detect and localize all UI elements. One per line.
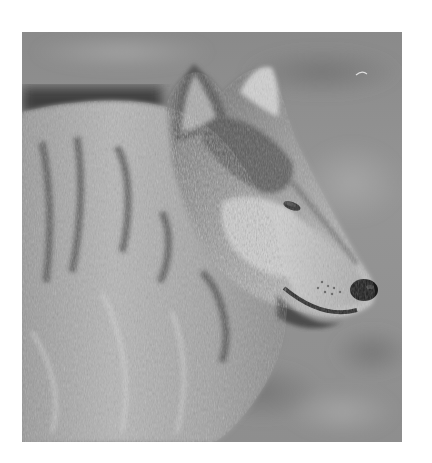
wolf-photo: Black and white close-up photograph of a… [22, 32, 402, 442]
wolf-illustration [22, 32, 402, 442]
